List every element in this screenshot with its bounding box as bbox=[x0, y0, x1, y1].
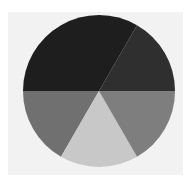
pie-slices bbox=[23, 15, 175, 167]
pie-chart bbox=[0, 0, 188, 182]
